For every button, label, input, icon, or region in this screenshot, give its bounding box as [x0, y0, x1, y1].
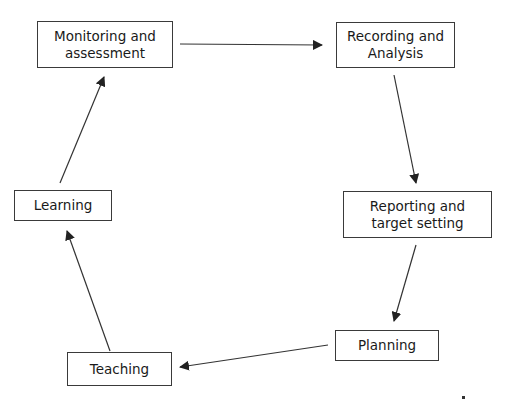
node-label: Teaching [90, 361, 149, 378]
node-label: Reporting and target setting [370, 198, 465, 232]
arrow-recording-to-reporting [394, 75, 416, 183]
node-learning: Learning [14, 190, 112, 221]
node-label: Learning [34, 197, 93, 214]
arrow-reporting-to-planning [394, 245, 416, 321]
node-label: Recording and Analysis [347, 28, 444, 62]
node-reporting-and-target-setting: Reporting and target setting [343, 191, 492, 238]
node-monitoring-and-assessment: Monitoring and assessment [37, 21, 173, 68]
arrow-planning-to-teaching [180, 345, 328, 367]
node-label: Planning [358, 337, 416, 354]
node-label: Monitoring and assessment [54, 28, 156, 62]
node-planning: Planning [335, 330, 439, 361]
arrow-learning-to-monitoring [60, 77, 104, 183]
node-recording-and-analysis: Recording and Analysis [336, 22, 455, 68]
arrow-monitoring-to-recording [180, 44, 322, 45]
scan-speck [462, 396, 465, 399]
node-teaching: Teaching [67, 352, 172, 386]
arrow-teaching-to-learning [67, 231, 110, 351]
